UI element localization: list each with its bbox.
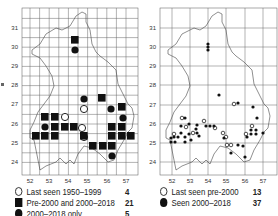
right-map-county-outline [166,12,270,170]
svg-text:24: 24 [11,159,18,165]
svg-text:29: 29 [11,63,18,69]
legend-count: 37 [253,197,262,208]
svg-text:30: 30 [11,44,18,50]
svg-text:55: 55 [84,178,91,184]
left-map-grid [22,8,138,175]
right-map-legend: Last seen pre-2000 13 Seen 2000–2018 37 [160,186,239,208]
right-map-grid [160,8,277,175]
svg-text:53: 53 [46,178,53,184]
svg-text:31: 31 [149,25,156,31]
svg-text:25: 25 [11,140,18,146]
svg-text:29: 29 [149,63,156,69]
svg-text:57: 57 [123,178,130,184]
legend-label: Last seen 1950–1999 [26,186,101,197]
svg-text:55: 55 [223,178,230,184]
svg-text:54: 54 [65,178,72,184]
svg-text:54: 54 [205,178,212,184]
svg-text:56: 56 [242,178,249,184]
legend-count: 5 [125,208,129,216]
open-circle-icon [15,187,22,196]
right-map-filled-circles [169,42,264,158]
left-map-filled-squares [32,36,135,150]
legend-label: Seen 2000–2018 [171,197,230,208]
open-circle-icon [160,187,167,196]
legend-label: Pre-2000 and 2000–2018 [26,197,114,208]
svg-text:26: 26 [149,121,156,127]
legend-count: 13 [253,186,262,197]
right-map-y-ticks: 31 30 29 28 27 26 25 24 [149,25,156,165]
svg-text:26: 26 [11,121,18,127]
right-map: 31 30 29 28 27 26 25 24 52 53 54 55 56 5… [149,8,277,184]
svg-text:24: 24 [149,159,156,165]
svg-text:27: 27 [149,102,156,108]
legend-item: Last seen 1950–1999 4 [15,186,115,197]
legend-label: Last seen pre-2000 [171,186,238,197]
svg-text:25: 25 [149,140,156,146]
left-map-county-outline [30,12,134,170]
legend-item: Pre-2000 and 2000–2018 21 [15,197,115,208]
left-map-x-ticks: 52 53 54 55 56 57 [27,178,130,184]
svg-text:52: 52 [27,178,34,184]
left-map-y-ticks: 31 30 29 28 27 26 25 24 [11,25,18,165]
svg-text:28: 28 [149,82,156,88]
filled-circle-icon [160,198,167,207]
left-map: 31 30 29 28 27 26 25 24 52 53 54 55 56 5… [11,8,138,184]
svg-text:52: 52 [169,178,176,184]
distribution-maps: 31 30 29 28 27 26 25 24 52 53 54 55 56 5… [0,0,278,216]
svg-text:27: 27 [11,101,18,107]
svg-text:53: 53 [187,178,194,184]
left-map-legend: Last seen 1950–1999 4 Pre-2000 and 2000–… [15,186,115,216]
filled-circle-icon [15,209,22,216]
legend-item: Seen 2000–2018 37 [160,197,239,208]
svg-text:30: 30 [149,44,156,50]
legend-label: 2000–2018 only [26,208,81,216]
svg-text:28: 28 [11,82,18,88]
legend-count: 21 [125,197,134,208]
svg-text:57: 57 [260,178,267,184]
legend-item: 2000–2018 only 5 [15,208,115,216]
svg-text:31: 31 [11,25,18,31]
right-map-open-circles [172,102,254,147]
filled-square-icon [15,198,22,207]
right-map-x-ticks: 52 53 54 55 56 57 [169,178,267,184]
legend-item: Last seen pre-2000 13 [160,186,239,197]
svg-text:56: 56 [104,178,111,184]
legend-count: 4 [125,186,129,197]
